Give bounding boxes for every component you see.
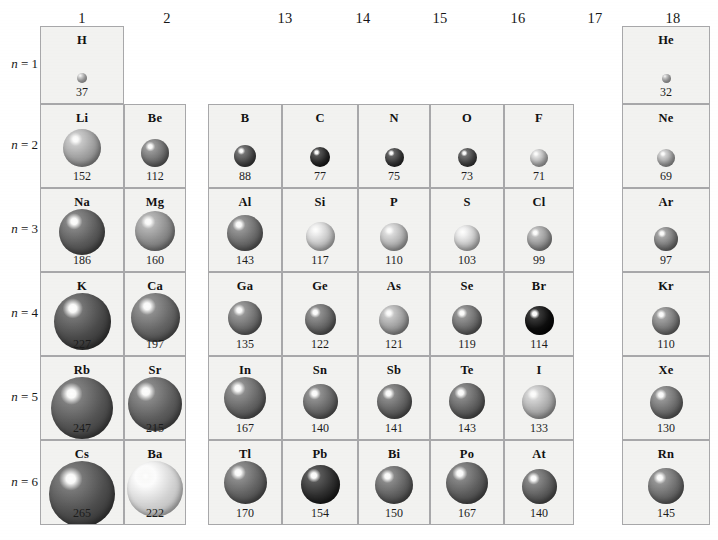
atomic-radius-value: 73 — [431, 169, 503, 184]
atom-sphere-mg — [135, 211, 175, 251]
atomic-radius-value: 130 — [623, 421, 709, 436]
element-cell-li[interactable]: Li152 — [40, 104, 124, 188]
atom-sphere-se — [452, 305, 482, 335]
atom-sphere-o — [458, 148, 477, 167]
element-cell-pb[interactable]: Pb154 — [282, 440, 358, 525]
element-cell-as[interactable]: As121 — [358, 272, 430, 356]
atom-sphere-tl — [224, 461, 267, 504]
element-cell-al[interactable]: Al143 — [208, 188, 282, 272]
element-cell-br[interactable]: Br114 — [504, 272, 574, 356]
element-cell-kr[interactable]: Kr110 — [622, 272, 710, 356]
element-symbol: Te — [431, 363, 503, 378]
element-cell-rb[interactable]: Rb247 — [40, 356, 124, 440]
element-cell-si[interactable]: Si117 — [282, 188, 358, 272]
period-label-n-6: n = 6 — [2, 474, 38, 490]
period-label-n-5: n = 5 — [2, 389, 38, 405]
element-cell-xe[interactable]: Xe130 — [622, 356, 710, 440]
element-cell-be[interactable]: Be112 — [124, 104, 186, 188]
atomic-radius-value: 135 — [209, 337, 281, 352]
element-cell-cl[interactable]: Cl99 — [504, 188, 574, 272]
element-cell-cs[interactable]: Cs265 — [40, 440, 124, 525]
atom-sphere-si — [306, 222, 335, 251]
element-cell-s[interactable]: S103 — [430, 188, 504, 272]
element-cell-te[interactable]: Te143 — [430, 356, 504, 440]
element-cell-ne[interactable]: Ne69 — [622, 104, 710, 188]
element-cell-c[interactable]: C77 — [282, 104, 358, 188]
element-cell-in[interactable]: In167 — [208, 356, 282, 440]
element-symbol: Be — [125, 111, 185, 126]
atom-sphere-ga — [228, 301, 262, 335]
atomic-radii-periodic-chart: 12131415161718 n = 1n = 2n = 3n = 4n = 5… — [0, 0, 718, 540]
element-symbol: In — [209, 363, 281, 378]
element-cell-b[interactable]: B88 — [208, 104, 282, 188]
element-cell-mg[interactable]: Mg160 — [124, 188, 186, 272]
element-cell-o[interactable]: O73 — [430, 104, 504, 188]
element-cell-sb[interactable]: Sb141 — [358, 356, 430, 440]
element-symbol: Rn — [623, 447, 709, 462]
period-label-value: = 2 — [18, 137, 38, 152]
atomic-radius-value: 32 — [623, 85, 709, 100]
element-cell-k[interactable]: K227 — [40, 272, 124, 356]
atom-sphere-c — [310, 147, 330, 167]
element-symbol: Br — [505, 279, 573, 294]
atom-sphere-cl — [527, 226, 552, 251]
atomic-radius-value: 186 — [41, 253, 123, 268]
element-cell-at[interactable]: At140 — [504, 440, 574, 525]
element-cell-h[interactable]: H37 — [40, 26, 124, 104]
element-cell-ba[interactable]: Ba222 — [124, 440, 186, 525]
atom-sphere-b — [234, 145, 256, 167]
element-cell-he[interactable]: He32 — [622, 26, 710, 104]
atom-sphere-n — [385, 148, 404, 167]
element-symbol: Sr — [125, 363, 185, 378]
element-cell-tl[interactable]: Tl170 — [208, 440, 282, 525]
element-symbol: Se — [431, 279, 503, 294]
atom-sphere-sb — [377, 384, 412, 419]
atomic-radius-value: 227 — [41, 337, 123, 352]
atom-sphere-h — [77, 73, 87, 83]
element-cell-ca[interactable]: Ca197 — [124, 272, 186, 356]
atomic-radius-value: 150 — [359, 506, 429, 521]
element-cell-n[interactable]: N75 — [358, 104, 430, 188]
element-symbol: At — [505, 447, 573, 462]
element-cell-f[interactable]: F71 — [504, 104, 574, 188]
element-cell-i[interactable]: I133 — [504, 356, 574, 440]
element-cell-ge[interactable]: Ge122 — [282, 272, 358, 356]
atomic-radius-value: 110 — [623, 337, 709, 352]
atom-sphere-he — [662, 74, 671, 83]
element-cell-sr[interactable]: Sr215 — [124, 356, 186, 440]
element-symbol: Ba — [125, 447, 185, 462]
atom-sphere-po — [446, 462, 488, 504]
atomic-radius-value: 141 — [359, 421, 429, 436]
group-number-14: 14 — [323, 8, 403, 28]
element-symbol: Rb — [41, 363, 123, 378]
element-cell-se[interactable]: Se119 — [430, 272, 504, 356]
atomic-radius-value: 133 — [505, 421, 573, 436]
group-number-13: 13 — [245, 8, 325, 28]
element-symbol: Mg — [125, 195, 185, 210]
atom-sphere-as — [379, 305, 409, 335]
period-label-n-2: n = 2 — [2, 137, 38, 153]
element-symbol: Bi — [359, 447, 429, 462]
element-symbol: Ar — [623, 195, 709, 210]
period-label-n-3: n = 3 — [2, 221, 38, 237]
element-cell-na[interactable]: Na186 — [40, 188, 124, 272]
element-symbol: Cl — [505, 195, 573, 210]
atomic-radius-value: 143 — [209, 253, 281, 268]
group-number-18: 18 — [633, 8, 713, 28]
element-symbol: N — [359, 111, 429, 126]
element-cell-ar[interactable]: Ar97 — [622, 188, 710, 272]
element-symbol: Pb — [283, 447, 357, 462]
element-cell-rn[interactable]: Rn145 — [622, 440, 710, 525]
atomic-radius-value: 37 — [41, 85, 123, 100]
element-symbol: Cs — [41, 447, 123, 462]
element-cell-bi[interactable]: Bi150 — [358, 440, 430, 525]
atom-sphere-in — [224, 377, 266, 419]
atom-sphere-p — [380, 223, 408, 251]
atom-sphere-sn — [303, 384, 338, 419]
element-cell-sn[interactable]: Sn140 — [282, 356, 358, 440]
element-cell-p[interactable]: P110 — [358, 188, 430, 272]
element-cell-po[interactable]: Po167 — [430, 440, 504, 525]
element-cell-ga[interactable]: Ga135 — [208, 272, 282, 356]
element-symbol: K — [41, 279, 123, 294]
atomic-radius-value: 117 — [283, 253, 357, 268]
